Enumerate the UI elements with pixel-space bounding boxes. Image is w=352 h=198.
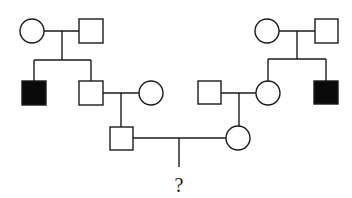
female-unaffected-II-3 [139, 81, 163, 105]
male-unaffected-III-1 [110, 127, 133, 150]
gen3-couple [110, 126, 250, 167]
left-gen2 [22, 81, 163, 127]
male-unaffected-II-4 [198, 81, 221, 104]
male-unaffected-I-2 [79, 19, 103, 43]
male-unaffected-I-4 [315, 19, 338, 43]
pedigree-chart: ? [0, 0, 352, 198]
female-unaffected-II-5 [256, 81, 280, 105]
female-unaffected-III-2 [226, 126, 250, 150]
left-grandparents [20, 19, 103, 81]
male-unaffected-II-2 [79, 81, 103, 105]
right-grandparents [255, 19, 338, 81]
male-affected-II-6 [314, 81, 338, 104]
female-unaffected-I-3 [255, 19, 279, 43]
unknown-child-label: ? [175, 174, 184, 196]
male-affected-II-1 [22, 81, 46, 105]
female-unaffected-I-1 [20, 19, 44, 43]
right-gen2 [198, 81, 338, 126]
